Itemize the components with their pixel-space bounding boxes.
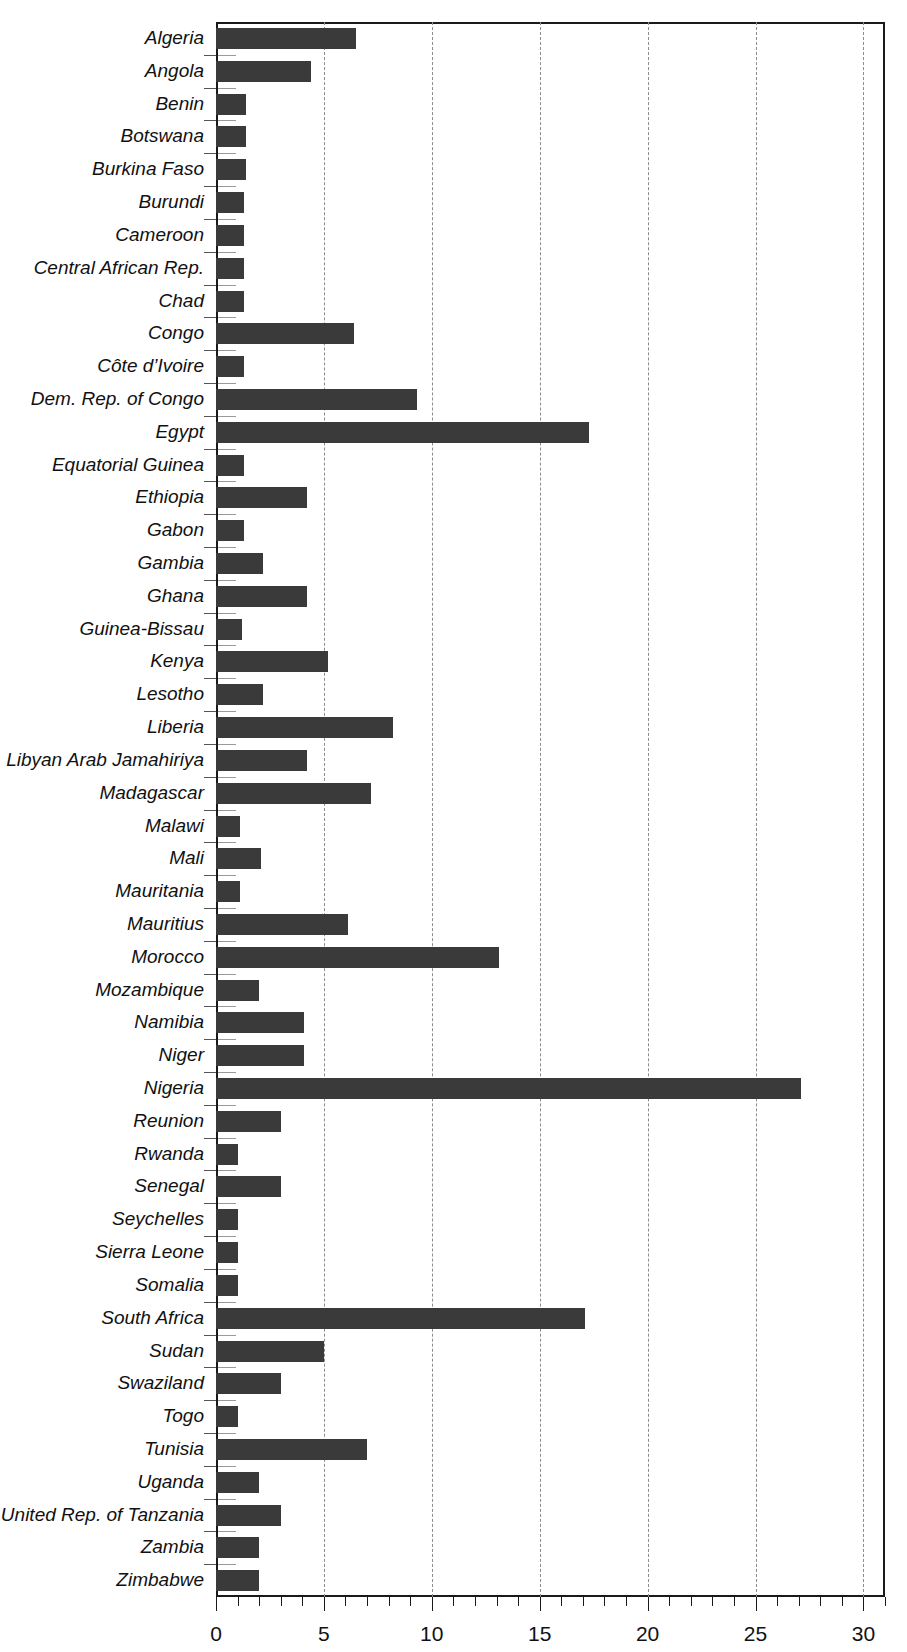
category-label: Reunion	[133, 1105, 216, 1138]
bar	[216, 619, 242, 640]
bar-row: Botswana	[216, 120, 885, 153]
bar	[216, 1373, 281, 1394]
category-label: Côte d’Ivoire	[97, 350, 216, 383]
category-label: Senegal	[134, 1170, 216, 1203]
category-label: Somalia	[135, 1269, 216, 1302]
bar-row: Nigeria	[216, 1072, 885, 1105]
bar	[216, 1078, 801, 1099]
category-label: Sudan	[149, 1335, 216, 1368]
x-tick-label-0: 0	[210, 1622, 222, 1646]
bar	[216, 1308, 585, 1329]
category-label: Dem. Rep. of Congo	[31, 383, 216, 416]
bar	[216, 94, 246, 115]
bar-row: Malawi	[216, 810, 885, 843]
category-label: Chad	[159, 285, 216, 318]
x-tick-26	[777, 1597, 778, 1606]
bar	[216, 192, 244, 213]
category-label: Libyan Arab Jamahiriya	[6, 744, 216, 777]
bar-row: Zambia	[216, 1531, 885, 1564]
bar-row: Mozambique	[216, 974, 885, 1007]
category-label: Nigeria	[144, 1072, 216, 1105]
x-tick-8	[389, 1597, 390, 1606]
category-label: Togo	[162, 1400, 216, 1433]
bar-row: Madagascar	[216, 777, 885, 810]
category-label: South Africa	[101, 1302, 216, 1335]
bar	[216, 323, 354, 344]
bar-row: Tunisia	[216, 1433, 885, 1466]
bar-row: Angola	[216, 55, 885, 88]
category-label: Gambia	[137, 547, 216, 580]
bar	[216, 1472, 259, 1493]
bar	[216, 1209, 238, 1230]
bar-row: Central African Rep.	[216, 252, 885, 285]
bar	[216, 1111, 281, 1132]
bar-row: Lesotho	[216, 678, 885, 711]
bar	[216, 1012, 304, 1033]
category-label: Sierra Leone	[95, 1236, 216, 1269]
category-label: Mali	[169, 842, 216, 875]
bar-row: Senegal	[216, 1170, 885, 1203]
bar	[216, 1275, 238, 1296]
x-tick-30	[863, 1597, 864, 1611]
x-tick-14	[518, 1597, 519, 1606]
x-tick-22	[691, 1597, 692, 1606]
x-tick-20	[648, 1597, 649, 1611]
bar-row: South Africa	[216, 1302, 885, 1335]
x-tick-31	[885, 1597, 886, 1606]
category-label: Mauritania	[115, 875, 216, 908]
x-tick-19	[626, 1597, 627, 1606]
x-tick-28	[820, 1597, 821, 1606]
x-tick-23	[712, 1597, 713, 1606]
x-tick-25	[756, 1597, 757, 1611]
bar	[216, 28, 356, 49]
x-tick-label-15: 15	[528, 1622, 551, 1646]
category-label: Algeria	[145, 22, 216, 55]
category-label: Rwanda	[134, 1138, 216, 1171]
bar	[216, 1341, 324, 1362]
bar	[216, 422, 589, 443]
category-label: Swaziland	[117, 1367, 216, 1400]
bar-row: Burkina Faso	[216, 153, 885, 186]
bar-row: Mauritania	[216, 875, 885, 908]
bar	[216, 487, 307, 508]
x-tick-15	[540, 1597, 541, 1611]
category-label: Ghana	[147, 580, 216, 613]
bar	[216, 291, 244, 312]
bar-row: Liberia	[216, 711, 885, 744]
bar-row: Gabon	[216, 514, 885, 547]
category-label: Equatorial Guinea	[52, 449, 216, 482]
x-tick-label-30: 30	[852, 1622, 875, 1646]
bar-row: Zimbabwe	[216, 1564, 885, 1597]
bar	[216, 1505, 281, 1526]
x-tick-label-25: 25	[744, 1622, 767, 1646]
plot-area: AlgeriaAngolaBeninBotswanaBurkina FasoBu…	[216, 22, 885, 1597]
category-label: Tunisia	[144, 1433, 216, 1466]
x-tick-0	[216, 1597, 217, 1611]
bar	[216, 520, 244, 541]
chart-page: AlgeriaAngolaBeninBotswanaBurkina FasoBu…	[0, 0, 907, 1652]
bar	[216, 881, 240, 902]
category-label: Ethiopia	[135, 481, 216, 514]
x-tick-11	[453, 1597, 454, 1606]
bar	[216, 1176, 281, 1197]
x-tick-3	[281, 1597, 282, 1606]
category-label: Seychelles	[112, 1203, 216, 1236]
bar	[216, 684, 263, 705]
x-tick-18	[604, 1597, 605, 1606]
bar	[216, 1144, 238, 1165]
bar-row: Namibia	[216, 1006, 885, 1039]
bar	[216, 651, 328, 672]
x-tick-6	[345, 1597, 346, 1606]
category-label: Malawi	[145, 810, 216, 843]
bar-row: Gambia	[216, 547, 885, 580]
category-label: Burundi	[139, 186, 217, 219]
category-label: Gabon	[147, 514, 216, 547]
bar-row: Somalia	[216, 1269, 885, 1302]
bar	[216, 389, 417, 410]
category-label: Guinea-Bissau	[79, 613, 216, 646]
bar-row: Côte d’Ivoire	[216, 350, 885, 383]
category-label: Morocco	[131, 941, 216, 974]
category-label: Cameroon	[115, 219, 216, 252]
bar-row: Swaziland	[216, 1367, 885, 1400]
category-label: Central African Rep.	[34, 252, 216, 285]
